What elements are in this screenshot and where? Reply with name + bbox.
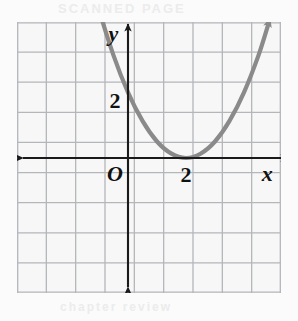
scanned-page-background: SCANNED PAGE practice problems graph the… <box>0 0 298 321</box>
y-axis-tick-label-2: 2 <box>110 88 121 113</box>
scan-bleedthrough-text-bottom: chapter review <box>60 300 172 314</box>
origin-label: O <box>107 161 123 186</box>
scan-bleedthrough-text-top: SCANNED PAGE <box>58 1 186 16</box>
x-axis-tick-label-2: 2 <box>181 162 192 187</box>
x-axis-label: x <box>261 161 273 186</box>
coordinate-plane-figure: O 2 2 x y <box>17 22 281 293</box>
graph-canvas: O 2 2 x y <box>17 22 281 293</box>
